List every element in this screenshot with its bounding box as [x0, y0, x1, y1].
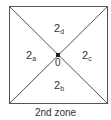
- zone-label-right: 2c: [82, 50, 92, 62]
- zone-label-top: 2d: [54, 23, 64, 35]
- center-label: 0: [55, 58, 61, 68]
- zone-label-left: 2a: [26, 50, 36, 62]
- diagram-caption: 2nd zone: [0, 107, 111, 118]
- zone-label-bottom: 2b: [54, 80, 64, 92]
